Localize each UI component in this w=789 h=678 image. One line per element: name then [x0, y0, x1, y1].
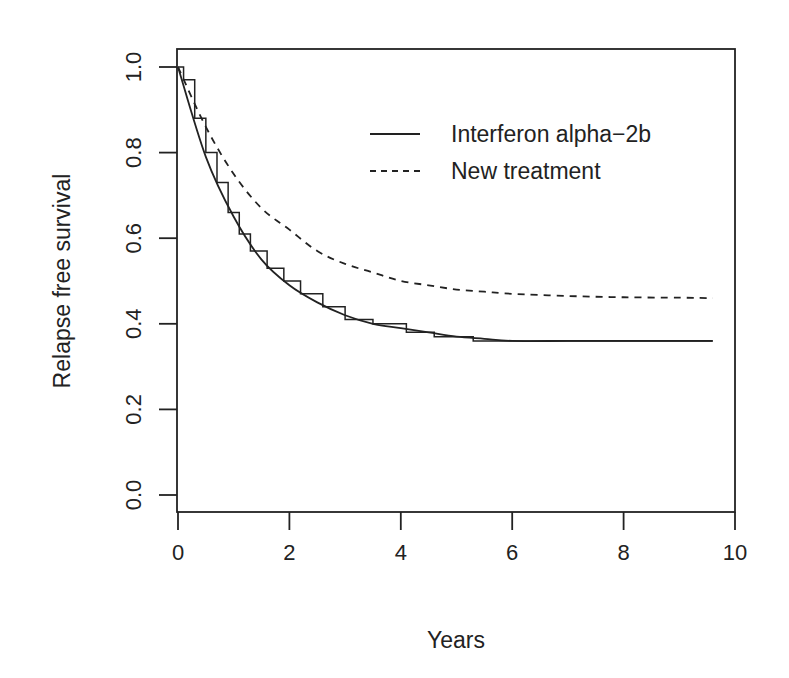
x-tick-label: 6 — [506, 540, 518, 565]
y-tick-label: 1.0 — [121, 52, 146, 83]
series-new-treatment — [178, 67, 713, 298]
y-tick-label: 0.6 — [121, 223, 146, 254]
x-tick-label: 0 — [172, 540, 184, 565]
x-axis: 0246810 — [172, 512, 747, 565]
y-tick-label: 0.0 — [121, 480, 146, 511]
plot-frame — [177, 49, 735, 512]
x-axis-title: Years — [427, 627, 485, 653]
series-layer — [178, 67, 713, 341]
x-tick-label: 10 — [723, 540, 747, 565]
y-tick-label: 0.8 — [121, 137, 146, 168]
y-axis: 0.00.20.40.60.81.0 — [121, 52, 177, 511]
x-tick-label: 8 — [617, 540, 629, 565]
legend: Interferon alpha−2b New treatment — [370, 121, 651, 184]
y-axis-title: Relapse free survival — [49, 174, 75, 389]
survival-chart: 0246810 0.00.20.40.60.81.0 Years Relapse… — [0, 0, 789, 678]
legend-label-new-treatment: New treatment — [451, 158, 601, 184]
y-tick-label: 0.2 — [121, 394, 146, 425]
x-tick-label: 2 — [283, 540, 295, 565]
x-tick-label: 4 — [395, 540, 407, 565]
legend-label-interferon: Interferon alpha−2b — [451, 121, 651, 147]
y-tick-label: 0.4 — [121, 309, 146, 340]
